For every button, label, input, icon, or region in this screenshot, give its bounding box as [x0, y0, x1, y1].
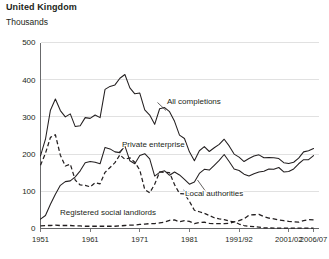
y-axis-tick-label: 100: [22, 187, 36, 196]
x-axis-tick-label: 1951: [32, 235, 49, 244]
y-axis-tick-label: 400: [22, 76, 36, 85]
x-axis-tick-label: 1991/92: [225, 235, 252, 244]
x-axis-tick-label: 2001/02: [275, 235, 302, 244]
line-chart-plot: 0100200300400500 19511961197119811991/92…: [0, 0, 329, 259]
y-axis-tick-labels: 0100200300400500: [22, 38, 36, 233]
x-axis-tick-label: 2006/07: [300, 235, 327, 244]
y-axis-tick-label: 200: [22, 150, 36, 159]
x-axis-tick-label: 1971: [131, 235, 148, 244]
y-axis-tick-label: 300: [22, 113, 36, 122]
series-annotations: All completionsAll completionsPrivate en…: [60, 97, 243, 217]
chart-container: United Kingdom Thousands 010020030040050…: [0, 0, 329, 259]
y-axis-tick-label: 0: [31, 224, 36, 233]
annotation-label: Local authorities: [185, 189, 243, 198]
annotation-label: Private enterprise: [122, 140, 185, 149]
annotation-label: Registered social landlords: [60, 208, 156, 217]
x-axis-tick-label: 1981: [181, 235, 198, 244]
annotation-label: All completions: [167, 97, 221, 106]
y-axis-tick-label: 500: [22, 38, 36, 47]
series-line-all-completions: [41, 74, 314, 163]
x-axis-tick-labels: 19511961197119811991/922001/022006/07: [32, 235, 327, 244]
x-axis-tick-label: 1961: [82, 235, 99, 244]
x-axis-tick-marks: [41, 229, 314, 233]
annotation-leader-line: [158, 103, 167, 111]
